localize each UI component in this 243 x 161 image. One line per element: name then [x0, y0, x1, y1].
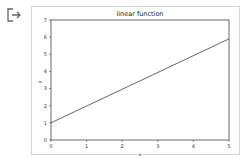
- y-tick-label: 7: [44, 17, 47, 23]
- y-tick-label: 3: [44, 85, 47, 91]
- series-line: [51, 39, 229, 123]
- plot-area: [51, 20, 229, 140]
- x-tick-label: 2: [121, 143, 124, 149]
- y-tick-label: 2: [44, 103, 47, 109]
- x-tick-label: 5: [227, 143, 230, 149]
- y-axis: 01234567: [44, 17, 51, 143]
- y-tick-label: 6: [44, 34, 47, 40]
- x-tick-label: 0: [49, 143, 52, 149]
- y-tick-label: 0: [44, 137, 47, 143]
- y-tick-label: 1: [44, 120, 47, 126]
- x-tick-label: 3: [156, 143, 159, 149]
- data-series: [51, 39, 229, 123]
- y-tick-label: 4: [44, 68, 47, 74]
- x-tick-label: 1: [85, 143, 88, 149]
- y-axis-label: y: [37, 80, 42, 83]
- chart-canvas: linear function 01234567 012345 y x: [0, 0, 243, 161]
- x-axis-label: x: [139, 152, 142, 157]
- x-tick-label: 4: [192, 143, 195, 149]
- chart-title: linear function: [116, 10, 163, 18]
- y-tick-label: 5: [44, 51, 47, 57]
- x-axis: 012345: [49, 140, 230, 149]
